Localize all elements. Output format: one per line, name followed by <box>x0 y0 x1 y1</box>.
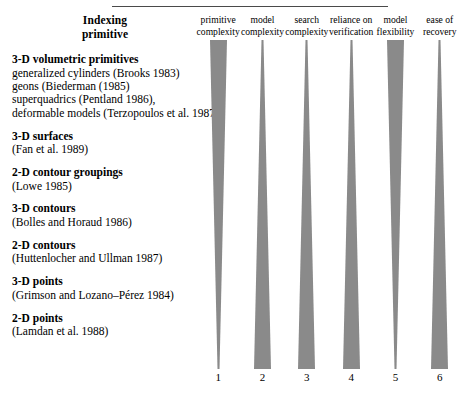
bar-wedge-6 <box>431 40 448 369</box>
entry-title: 2-D contour groupings <box>12 166 196 180</box>
entry-citations: (Lowe 1985) <box>12 180 196 193</box>
column-header-line1: model <box>240 14 284 26</box>
column-header-row: primitivecomplexitymodelcomplexitysearch… <box>196 14 462 40</box>
bar-wedge-5 <box>387 40 404 369</box>
column-header-5: modelflexibility <box>373 14 417 39</box>
entry-citation-line: (Grimson and Lozano–Pérez 1984) <box>12 289 196 302</box>
column-header-line1: model <box>373 14 417 26</box>
page-title: Indexing primitive <box>0 14 196 41</box>
entry-citation-line: (Lamdan et al. 1988) <box>12 325 196 338</box>
column-header-3: searchcomplexity <box>285 14 329 39</box>
axis-number-row: 123456 <box>196 371 462 387</box>
entry-citation-line: (Lowe 1985) <box>12 180 196 193</box>
entry-citations: (Lamdan et al. 1988) <box>12 325 196 338</box>
axis-number-6: 6 <box>418 371 462 384</box>
bar-column-6 <box>431 40 448 369</box>
top-horizontal-rule <box>112 6 388 7</box>
column-header-line2: verification <box>329 26 373 38</box>
bar-column-3 <box>298 40 315 369</box>
entry-citation-line: superquadrics (Pentland 1986), <box>12 93 196 106</box>
bars-area <box>196 40 462 369</box>
bar-wedge-1 <box>210 40 227 369</box>
entry-citations: (Huttenlocher and Ullman 1987) <box>12 252 196 265</box>
entry-citation-line: (Fan et al. 1989) <box>12 143 196 156</box>
axis-number-5: 5 <box>373 371 417 384</box>
entry-title: 3-D contours <box>12 202 196 216</box>
column-header-line2: complexity <box>285 26 329 38</box>
entry-title: 3-D volumetric primitives <box>12 53 196 67</box>
entry-citations: generalized cylinders (Brooks 1983)geons… <box>12 67 196 121</box>
column-header-1: primitivecomplexity <box>196 14 240 39</box>
list-item: 2-D contours(Huttenlocher and Ullman 198… <box>12 239 196 266</box>
column-header-line2: recovery <box>418 26 462 38</box>
list-item: 3-D contours(Bolles and Horaud 1986) <box>12 202 196 229</box>
attribute-chart: primitivecomplexitymodelcomplexitysearch… <box>196 14 462 389</box>
list-item: 3-D surfaces(Fan et al. 1989) <box>12 130 196 157</box>
axis-number-3: 3 <box>285 371 329 384</box>
axis-number-4: 4 <box>329 371 373 384</box>
entry-citation-line: generalized cylinders (Brooks 1983) <box>12 67 196 80</box>
column-header-2: modelcomplexity <box>240 14 284 39</box>
entry-citations: (Grimson and Lozano–Pérez 1984) <box>12 289 196 302</box>
column-header-line2: flexibility <box>373 26 417 38</box>
bar-column-1 <box>210 40 227 369</box>
axis-number-2: 2 <box>240 371 284 384</box>
list-item: 3-D volumetric primitivesgeneralized cyl… <box>12 53 196 120</box>
left-heading-line2: primitive <box>14 28 196 42</box>
column-header-line1: search <box>285 14 329 26</box>
entry-list: 3-D volumetric primitivesgeneralized cyl… <box>0 53 196 339</box>
entry-citation-line: geons (Biederman (1985) <box>12 80 196 93</box>
entry-title: 3-D points <box>12 275 196 289</box>
column-header-line1: primitive <box>196 14 240 26</box>
column-header-4: reliance onverification <box>329 14 373 39</box>
column-header-line1: reliance on <box>329 14 373 26</box>
entry-citations: (Fan et al. 1989) <box>12 143 196 156</box>
entry-title: 2-D points <box>12 312 196 326</box>
bar-column-2 <box>254 40 271 369</box>
list-item: 2-D points(Lamdan et al. 1988) <box>12 312 196 339</box>
entry-title: 3-D surfaces <box>12 130 196 144</box>
list-item: 3-D points(Grimson and Lozano–Pérez 1984… <box>12 275 196 302</box>
bar-wedge-3 <box>298 40 315 369</box>
entry-citations: (Bolles and Horaud 1986) <box>12 216 196 229</box>
bar-wedge-2 <box>254 40 271 369</box>
column-header-line1: ease of <box>418 14 462 26</box>
entry-citation-line: (Huttenlocher and Ullman 1987) <box>12 252 196 265</box>
list-item: 2-D contour groupings(Lowe 1985) <box>12 166 196 193</box>
column-header-line2: complexity <box>240 26 284 38</box>
indexing-primitive-panel: Indexing primitive 3-D volumetric primit… <box>0 14 196 348</box>
entry-citation-line: deformable models (Terzopoulos et al. 19… <box>12 107 196 120</box>
entry-title: 2-D contours <box>12 239 196 253</box>
bar-wedge-4 <box>343 40 360 369</box>
axis-number-1: 1 <box>196 371 240 384</box>
column-header-6: ease ofrecovery <box>418 14 462 39</box>
entry-citation-line: (Bolles and Horaud 1986) <box>12 216 196 229</box>
column-header-line2: complexity <box>196 26 240 38</box>
bar-column-5 <box>387 40 404 369</box>
left-heading-line1: Indexing <box>14 14 196 28</box>
bar-column-4 <box>343 40 360 369</box>
